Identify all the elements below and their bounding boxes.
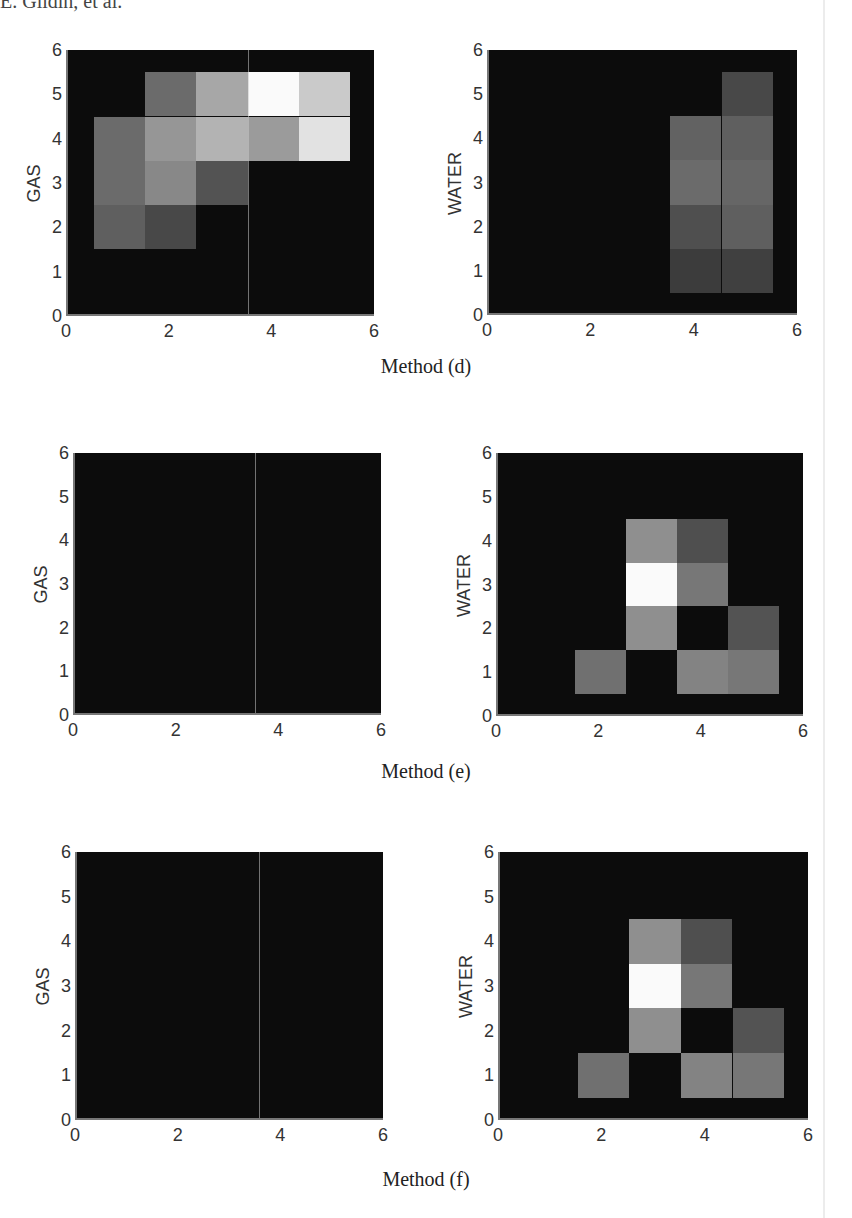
x-tick-label: 2 bbox=[166, 721, 186, 739]
heatmap-cell bbox=[196, 117, 247, 161]
heatmap-cell bbox=[670, 249, 722, 293]
heatmap-axes bbox=[66, 50, 374, 316]
y-tick-label: 6 bbox=[55, 843, 71, 861]
y-tick-label: 2 bbox=[53, 619, 69, 637]
heatmap-cell bbox=[670, 160, 722, 204]
y-tick-label: 4 bbox=[46, 130, 62, 148]
y-tick-label: 4 bbox=[476, 532, 492, 550]
heatmap-cell bbox=[677, 650, 728, 694]
x-tick-label: 0 bbox=[65, 1126, 85, 1144]
heatmap-cell bbox=[299, 72, 350, 116]
y-tick-label: 6 bbox=[53, 444, 69, 462]
heatmap-axes bbox=[75, 852, 383, 1120]
x-tick-label: 2 bbox=[588, 722, 608, 740]
y-tick-label: 6 bbox=[478, 843, 494, 861]
heatmap-cell bbox=[626, 519, 677, 563]
x-tick-label: 0 bbox=[477, 321, 497, 339]
heatmap-cell bbox=[94, 205, 145, 249]
y-tick-label: 5 bbox=[467, 85, 483, 103]
y-tick-label: 5 bbox=[55, 888, 71, 906]
x-tick-label: 0 bbox=[63, 721, 83, 739]
y-tick-label: 1 bbox=[55, 1066, 71, 1084]
y-tick-label: 6 bbox=[476, 444, 492, 462]
heatmap-cell bbox=[626, 606, 677, 650]
heatmap-cell bbox=[670, 205, 722, 249]
x-tick-label: 6 bbox=[371, 721, 391, 739]
heatmap-cell bbox=[733, 1008, 785, 1053]
heatmap-cell bbox=[677, 563, 728, 607]
x-tick-label: 6 bbox=[787, 321, 807, 339]
caption-method-e: Method (e) bbox=[0, 760, 852, 783]
y-axis-label: GAS bbox=[31, 545, 52, 625]
heatmap-cell bbox=[677, 519, 728, 563]
heatmap-cell bbox=[248, 72, 299, 116]
heatmap-cell bbox=[681, 919, 733, 964]
x-tick-label: 0 bbox=[488, 1126, 508, 1144]
heatmap-cell bbox=[196, 161, 247, 205]
heatmap-axes bbox=[73, 453, 381, 715]
heatmap-cell bbox=[677, 606, 728, 650]
heatmap-axes bbox=[496, 453, 803, 716]
y-tick-label: 5 bbox=[478, 888, 494, 906]
caption-method-f: Method (f) bbox=[0, 1168, 852, 1191]
heatmap-axes bbox=[487, 50, 797, 315]
x-tick-label: 6 bbox=[798, 1126, 818, 1144]
x-tick-label: 4 bbox=[268, 721, 288, 739]
scan-line-artifact bbox=[255, 453, 256, 713]
y-axis-label: WATER bbox=[454, 545, 475, 625]
heatmap-cell bbox=[722, 205, 774, 249]
heatmap-axes bbox=[498, 852, 808, 1120]
heatmap-cell bbox=[196, 72, 247, 116]
y-axis-label: WATER bbox=[445, 143, 466, 223]
y-tick-label: 2 bbox=[55, 1022, 71, 1040]
y-tick-label: 1 bbox=[476, 663, 492, 681]
y-axis-label: GAS bbox=[33, 947, 54, 1027]
heatmap-cell bbox=[626, 650, 677, 694]
heatmap-cell bbox=[145, 117, 196, 161]
y-tick-label: 4 bbox=[478, 932, 494, 950]
heatmap-cell bbox=[626, 563, 677, 607]
heatmap-cell bbox=[670, 116, 722, 160]
y-tick-label: 1 bbox=[53, 662, 69, 680]
heatmap-cell bbox=[629, 1008, 681, 1053]
heatmap-cell bbox=[722, 249, 774, 293]
y-tick-label: 3 bbox=[467, 174, 483, 192]
x-tick-label: 0 bbox=[56, 322, 76, 340]
scan-line-artifact bbox=[259, 852, 260, 1118]
y-tick-label: 6 bbox=[467, 41, 483, 59]
heatmap-cell bbox=[681, 964, 733, 1009]
y-tick-label: 1 bbox=[46, 263, 62, 281]
y-tick-label: 6 bbox=[46, 41, 62, 59]
x-tick-label: 4 bbox=[695, 1126, 715, 1144]
caption-method-d: Method (d) bbox=[0, 355, 852, 378]
heatmap-cell bbox=[681, 1053, 733, 1098]
heatmap-cell bbox=[94, 161, 145, 205]
heatmap-cell bbox=[94, 117, 145, 161]
heatmap-cell bbox=[248, 117, 299, 161]
y-axis-label: GAS bbox=[24, 144, 45, 224]
x-tick-label: 2 bbox=[168, 1126, 188, 1144]
x-tick-label: 2 bbox=[580, 321, 600, 339]
heatmap-cell bbox=[728, 606, 779, 650]
y-tick-label: 5 bbox=[46, 85, 62, 103]
x-tick-label: 4 bbox=[261, 322, 281, 340]
heatmap-cell bbox=[145, 72, 196, 116]
y-tick-label: 1 bbox=[467, 262, 483, 280]
heatmap-cell bbox=[722, 160, 774, 204]
x-tick-label: 2 bbox=[159, 322, 179, 340]
y-tick-label: 2 bbox=[478, 1022, 494, 1040]
heatmap-cell bbox=[728, 650, 779, 694]
y-tick-label: 2 bbox=[467, 218, 483, 236]
y-tick-label: 4 bbox=[467, 129, 483, 147]
y-tick-label: 1 bbox=[478, 1066, 494, 1084]
x-tick-label: 4 bbox=[684, 321, 704, 339]
y-tick-label: 4 bbox=[55, 932, 71, 950]
y-tick-label: 2 bbox=[476, 619, 492, 637]
y-tick-label: 4 bbox=[53, 531, 69, 549]
x-tick-label: 6 bbox=[373, 1126, 393, 1144]
heatmap-cell bbox=[145, 161, 196, 205]
heatmap-cell bbox=[575, 650, 626, 694]
heatmap-cell bbox=[722, 116, 774, 160]
y-tick-label: 3 bbox=[476, 576, 492, 594]
x-tick-label: 4 bbox=[270, 1126, 290, 1144]
